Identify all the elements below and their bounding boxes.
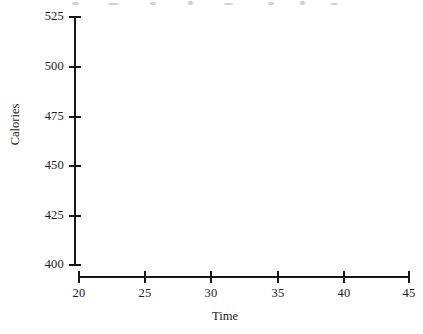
x-axis-tick-label: 45 — [389, 286, 423, 300]
chart-figure: 525 500 475 450 425 400 Calories 20 25 3… — [0, 0, 423, 334]
y-axis-tick-label: 425 — [26, 209, 64, 221]
x-axis-tick-label: 40 — [324, 286, 364, 300]
y-axis-tick-label: 475 — [26, 110, 64, 122]
y-axis-tick-label-text: 500 — [26, 60, 64, 72]
y-axis-tick-label: 525 — [26, 10, 64, 22]
x-axis-tick-label: 25 — [125, 286, 165, 300]
scan-artifact-strip — [0, 0, 423, 7]
x-axis-tick-label: 35 — [258, 286, 298, 300]
y-axis-tick-label-text: 475 — [26, 110, 64, 122]
y-axis-tick-label-text: 450 — [26, 159, 64, 171]
y-axis-tick-label-text: 525 — [26, 10, 64, 22]
y-axis-tick-label: 450 — [26, 159, 64, 171]
x-axis-tick-label: 30 — [191, 286, 231, 300]
y-axis-tick-label: 400 — [26, 258, 64, 270]
y-axis-tick-label: 500 — [26, 60, 64, 72]
x-axis-title: Time — [145, 309, 305, 323]
x-axis-tick-label: 20 — [59, 286, 99, 300]
y-axis-title: Calories — [9, 75, 22, 175]
y-axis-line — [74, 16, 76, 265]
y-axis-tick-label-text: 400 — [26, 258, 64, 270]
y-axis-tick-label-text: 425 — [26, 209, 64, 221]
plot-area — [79, 16, 410, 277]
